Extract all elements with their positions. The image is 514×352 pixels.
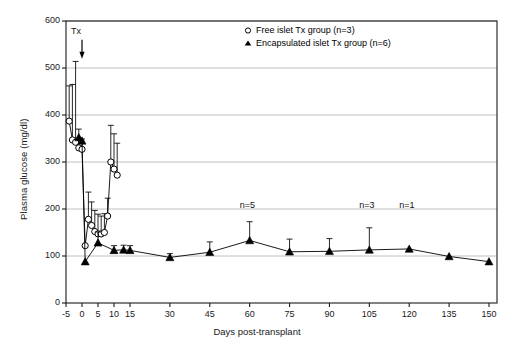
series-1 bbox=[66, 61, 120, 248]
series-2 bbox=[75, 134, 493, 265]
x-tick-label: 90 bbox=[314, 309, 344, 319]
data-point-filled-triangle bbox=[94, 239, 102, 246]
x-tick-label: 135 bbox=[434, 309, 464, 319]
tx-arrow-head bbox=[79, 52, 84, 59]
figure: Plasma glucose (mg/dl) Days post-transpl… bbox=[0, 0, 514, 352]
data-point-open-circle bbox=[105, 213, 111, 219]
x-tick-label: 60 bbox=[235, 309, 265, 319]
data-point-filled-triangle bbox=[81, 258, 89, 265]
x-tick-label: 45 bbox=[195, 309, 225, 319]
y-tick-label: 500 bbox=[26, 62, 60, 72]
tx-annotation-label: Tx bbox=[71, 26, 81, 36]
data-point-open-circle bbox=[101, 229, 107, 235]
data-point-open-circle bbox=[114, 172, 120, 178]
data-point-open-circle bbox=[89, 222, 95, 228]
group-count-annotation: n=1 bbox=[399, 200, 414, 210]
data-point-open-circle bbox=[85, 216, 91, 222]
y-tick-label: 300 bbox=[26, 156, 60, 166]
y-tick-label: 600 bbox=[26, 15, 60, 25]
plot-area bbox=[0, 0, 514, 352]
data-point-filled-triangle bbox=[120, 246, 128, 253]
x-tick-label: 105 bbox=[354, 309, 384, 319]
x-tick-label: 15 bbox=[115, 309, 145, 319]
data-point-filled-triangle bbox=[246, 236, 254, 243]
y-tick-label: 100 bbox=[26, 250, 60, 260]
x-tick-label: 120 bbox=[394, 309, 424, 319]
data-point-open-circle bbox=[66, 118, 72, 124]
y-tick-label: 200 bbox=[26, 203, 60, 213]
group-count-annotation: n=5 bbox=[240, 200, 255, 210]
group-count-annotation: n=3 bbox=[359, 200, 374, 210]
x-tick-label: 150 bbox=[474, 309, 504, 319]
x-tick-label: 30 bbox=[155, 309, 185, 319]
x-tick-label: 75 bbox=[275, 309, 305, 319]
series-line bbox=[79, 138, 489, 262]
y-tick-label: 0 bbox=[26, 297, 60, 307]
data-point-open-circle bbox=[108, 159, 114, 165]
data-point-open-circle bbox=[111, 166, 117, 172]
y-tick-label: 400 bbox=[26, 109, 60, 119]
